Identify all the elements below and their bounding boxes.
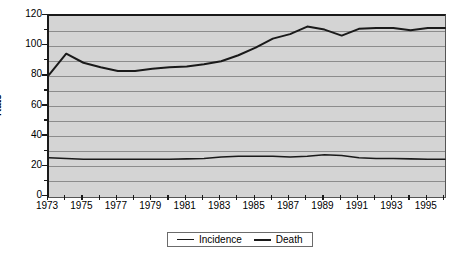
y-tick-label: 60 (16, 100, 42, 110)
x-tick-label: 1973 (36, 200, 58, 212)
x-tick-label: 1975 (70, 200, 92, 212)
chart-legend: Incidence Death (167, 232, 313, 247)
plot-area (47, 14, 446, 198)
x-tick-label: 1977 (105, 200, 127, 212)
legend-label-death: Death (276, 234, 303, 245)
x-tick-label: 1991 (346, 200, 368, 212)
y-axis-tick-labels: 120100806040200 (14, 0, 42, 261)
plot-inner (49, 16, 445, 197)
legend-line-swatch-death (254, 239, 271, 241)
x-tick-label: 1985 (242, 200, 264, 212)
x-tick-label: 1995 (415, 200, 437, 212)
line-chart-figure: Rate 120100806040200 1973197519771979198… (0, 0, 459, 261)
y-tick-label: 80 (16, 69, 42, 79)
x-axis-tick-labels: 1973197519771979198119831985198719891991… (0, 200, 459, 216)
legend-label-incidence: Incidence (199, 234, 242, 245)
y-tick-label: 100 (16, 39, 42, 49)
x-tick-label: 1979 (139, 200, 161, 212)
x-tick-label: 1989 (311, 200, 333, 212)
x-tick-label: 1993 (380, 200, 402, 212)
y-tick-label: 40 (16, 130, 42, 140)
x-tick-label: 1981 (174, 200, 196, 212)
y-axis-ticks (41, 14, 49, 196)
legend-item-incidence[interactable]: Incidence (177, 234, 242, 245)
x-tick-label: 1987 (277, 200, 299, 212)
y-tick-label: 20 (16, 160, 42, 170)
legend-line-swatch-incidence (177, 239, 194, 240)
x-tick-label: 1983 (208, 200, 230, 212)
data-series-layer (49, 16, 445, 197)
legend-item-death[interactable]: Death (254, 234, 303, 245)
y-tick-label: 120 (16, 9, 42, 19)
y-tick-label: 0 (16, 190, 42, 200)
